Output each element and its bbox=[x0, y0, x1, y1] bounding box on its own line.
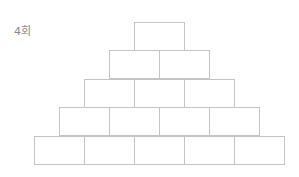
pyramid-cell[interactable] bbox=[134, 22, 185, 51]
pyramid-cell[interactable] bbox=[184, 79, 235, 108]
block-pyramid bbox=[0, 0, 299, 177]
pyramid-cell[interactable] bbox=[84, 79, 135, 108]
pyramid-cell[interactable] bbox=[134, 136, 185, 165]
pyramid-cell[interactable] bbox=[59, 107, 110, 136]
pyramid-row-4 bbox=[59, 107, 259, 136]
pyramid-cell[interactable] bbox=[159, 50, 210, 79]
pyramid-cell[interactable] bbox=[184, 136, 235, 165]
pyramid-cell[interactable] bbox=[209, 107, 260, 136]
pyramid-row-3 bbox=[84, 79, 234, 108]
pyramid-row-5 bbox=[34, 136, 284, 165]
pyramid-cell[interactable] bbox=[34, 136, 85, 165]
pyramid-cell[interactable] bbox=[109, 50, 160, 79]
pyramid-cell[interactable] bbox=[159, 107, 210, 136]
pyramid-cell[interactable] bbox=[84, 136, 135, 165]
pyramid-row-2 bbox=[109, 50, 209, 79]
pyramid-row-1 bbox=[134, 22, 184, 51]
pyramid-cell[interactable] bbox=[234, 136, 285, 165]
pyramid-cell[interactable] bbox=[109, 107, 160, 136]
pyramid-cell[interactable] bbox=[134, 79, 185, 108]
